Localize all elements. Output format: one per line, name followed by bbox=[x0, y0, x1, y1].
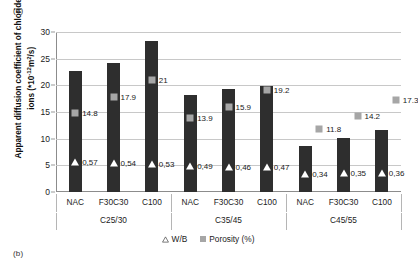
category-axis-row: NACF30C30C100NACF30C30C100NACF30C30C100 bbox=[56, 194, 401, 212]
y-axis-tick-label: 5 bbox=[45, 160, 50, 170]
axis-separator bbox=[171, 194, 172, 212]
axis-separator bbox=[171, 213, 172, 230]
category-label: F30C30 bbox=[99, 197, 129, 207]
y-axis-tick-mark bbox=[51, 112, 55, 113]
y-axis-tick-label: 15 bbox=[41, 107, 50, 117]
porosity-data-label: 21 bbox=[159, 76, 168, 85]
wb-data-label: 0,47 bbox=[274, 162, 290, 171]
bar bbox=[145, 41, 158, 192]
y-axis-title-suffix: /s) bbox=[27, 47, 36, 57]
category-label: NAC bbox=[66, 197, 84, 207]
porosity-data-label: 14.2 bbox=[365, 112, 381, 121]
porosity-marker bbox=[354, 113, 361, 120]
axis-separator bbox=[286, 194, 287, 212]
category-label: C100 bbox=[142, 197, 162, 207]
bar bbox=[375, 130, 388, 192]
group-label: C45/55 bbox=[330, 215, 357, 225]
wb-marker bbox=[110, 160, 118, 167]
bar bbox=[337, 138, 350, 192]
group-label: C25/30 bbox=[100, 215, 127, 225]
wb-data-label: 0,46 bbox=[236, 163, 252, 172]
square-icon bbox=[200, 236, 206, 242]
chart-figure: Apparent diffusion coefficient of chlori… bbox=[0, 14, 416, 246]
wb-marker bbox=[186, 162, 194, 169]
legend-label-porosity: Porosity (%) bbox=[209, 234, 254, 244]
porosity-marker bbox=[72, 110, 79, 117]
y-axis-title-text: Apparent diffusion coefficient of chlori… bbox=[14, 0, 37, 158]
porosity-data-label: 13.9 bbox=[197, 113, 213, 122]
legend-label-wb: W/B bbox=[172, 234, 188, 244]
wb-marker bbox=[71, 158, 79, 165]
bar bbox=[299, 146, 312, 192]
gridline bbox=[56, 32, 401, 33]
wb-marker bbox=[263, 163, 271, 170]
category-label: NAC bbox=[296, 197, 314, 207]
porosity-marker bbox=[187, 114, 194, 121]
chart-legend: W/B Porosity (%) bbox=[0, 234, 416, 244]
y-axis-tick-label: 25 bbox=[41, 54, 50, 64]
bar bbox=[107, 63, 120, 192]
bar bbox=[69, 71, 82, 192]
wb-marker bbox=[225, 164, 233, 171]
y-axis-tick-mark bbox=[51, 85, 55, 86]
y-axis-tick-mark bbox=[51, 192, 55, 193]
porosity-marker bbox=[392, 96, 399, 103]
porosity-marker bbox=[225, 104, 232, 111]
y-axis-tick-mark bbox=[51, 32, 55, 33]
legend-item-porosity: Porosity (%) bbox=[200, 234, 254, 244]
axis-edge bbox=[56, 194, 57, 212]
wb-marker bbox=[378, 169, 386, 176]
y-axis-tick-mark bbox=[51, 58, 55, 59]
porosity-data-label: 14.8 bbox=[82, 109, 98, 118]
wb-data-label: 0,53 bbox=[159, 159, 175, 168]
category-label: NAC bbox=[181, 197, 199, 207]
category-label: F30C30 bbox=[329, 197, 359, 207]
wb-data-label: 0,54 bbox=[121, 159, 137, 168]
y-axis-tick-mark bbox=[51, 165, 55, 166]
group-axis-row: C25/30C35/45C45/55 bbox=[56, 213, 401, 233]
wb-marker bbox=[301, 170, 309, 177]
plot-area: 05101520253014.817.92113.915.919.211.814… bbox=[56, 32, 401, 192]
porosity-data-label: 17.3 bbox=[403, 95, 418, 104]
porosity-data-label: 11.8 bbox=[326, 125, 341, 134]
wb-data-label: 0,34 bbox=[312, 169, 328, 178]
legend-item-wb: W/B bbox=[162, 234, 188, 244]
porosity-data-label: 17.9 bbox=[121, 92, 137, 101]
wb-data-label: 0,35 bbox=[351, 169, 367, 178]
y-axis-tick-label: 0 bbox=[45, 187, 50, 197]
gridline bbox=[56, 59, 401, 60]
porosity-marker bbox=[263, 86, 270, 93]
triangle-outline-icon bbox=[162, 236, 169, 243]
axis-edge bbox=[56, 213, 57, 230]
porosity-marker bbox=[148, 77, 155, 84]
axis-edge bbox=[401, 213, 402, 230]
wb-data-label: 0,57 bbox=[82, 157, 98, 166]
y-axis-tick-mark bbox=[51, 138, 55, 139]
y-axis-exponent: -12 bbox=[26, 67, 32, 76]
axis-separator bbox=[286, 213, 287, 230]
category-label: C100 bbox=[372, 197, 392, 207]
porosity-marker bbox=[316, 126, 323, 133]
group-label: C35/45 bbox=[215, 215, 242, 225]
y-axis-tick-label: 30 bbox=[41, 27, 50, 37]
wb-data-label: 0,36 bbox=[389, 168, 405, 177]
y-axis-exponent-2: 2 bbox=[26, 56, 32, 59]
y-axis-tick-label: 20 bbox=[41, 80, 50, 90]
category-label: F30C30 bbox=[214, 197, 244, 207]
wb-marker bbox=[148, 160, 156, 167]
y-axis-tick-label: 10 bbox=[41, 134, 50, 144]
porosity-marker bbox=[110, 93, 117, 100]
bar bbox=[260, 86, 273, 192]
porosity-data-label: 15.9 bbox=[236, 103, 252, 112]
wb-marker bbox=[340, 170, 348, 177]
wb-data-label: 0,49 bbox=[197, 161, 213, 170]
y-axis-title: Apparent diffusion coefficient of chlori… bbox=[13, 0, 38, 166]
y-axis-title-mid: m bbox=[27, 60, 36, 67]
axis-edge bbox=[401, 194, 402, 212]
category-label: C100 bbox=[257, 197, 277, 207]
bar bbox=[184, 95, 197, 192]
porosity-data-label: 19.2 bbox=[274, 85, 290, 94]
panel-label-b: (b) bbox=[13, 249, 23, 258]
